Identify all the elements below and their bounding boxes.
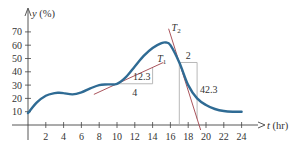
annotation-labels: 412.3T1242.3T2 [132,22,217,98]
y-tick-label: 10 [12,106,22,117]
x-tick-label: 6 [79,131,84,142]
x-tick-label: 22 [219,131,229,142]
x-tick-label: 2 [43,131,48,142]
x-tick-label: 18 [183,131,193,142]
x-tick-label: 16 [165,131,175,142]
tangent-label-t2: T2 [172,22,182,35]
x-axis-label: t (hr) [267,120,289,132]
x-tick-label: 12 [130,131,140,142]
y-axis-label: y (%) [31,8,56,20]
chart: 2468101214161820222410203040506070y (%)t… [0,0,295,149]
rise-label-t1: 12.3 [133,71,151,82]
y-tick-label: 30 [12,80,22,91]
y-tick-label: 20 [12,93,22,104]
x-tick-label: 10 [112,131,122,142]
run-label-t2: 2 [186,50,191,61]
x-tick-label: 8 [97,131,102,142]
tangent-label-t1: T1 [157,53,167,66]
y-tick-label: 40 [12,66,22,77]
y-tick-label: 50 [12,53,22,64]
y-tick-label: 70 [12,26,22,37]
run-label-t1: 4 [132,87,137,98]
x-tick-label: 20 [201,131,211,142]
x-axis-arrow-icon [258,122,265,128]
rise-label-t2: 42.3 [200,84,218,95]
x-tick-label: 24 [237,131,247,142]
x-tick-label: 14 [148,131,158,142]
y-tick-label: 60 [12,40,22,51]
x-tick-label: 4 [61,131,66,142]
